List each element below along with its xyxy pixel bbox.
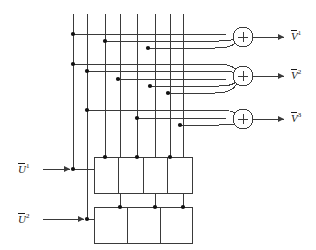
output-label-v2: V2 xyxy=(291,69,301,81)
output-v1-base: V xyxy=(291,31,298,42)
output-v2-superscript: 2 xyxy=(298,68,302,76)
output-v3-base: V xyxy=(291,113,298,124)
diagram-canvas xyxy=(0,0,316,250)
summing-junction-2 xyxy=(233,66,253,86)
input-u1-base: U xyxy=(18,164,26,175)
input-label-u2: U2 xyxy=(18,213,29,225)
output-arrows xyxy=(253,37,284,119)
summing-junction-3 xyxy=(233,109,253,129)
filter-block-diagram: U1 U2 V1 V2 V3 xyxy=(0,0,316,250)
input-u2-superscript: 2 xyxy=(26,212,30,220)
input-label-u1: U1 xyxy=(18,163,29,175)
input-arrows xyxy=(43,169,94,219)
output-v3-superscript: 3 xyxy=(298,111,302,119)
output-label-v3: V3 xyxy=(291,112,301,124)
summing-junction-1 xyxy=(233,27,253,47)
delay-block-upper xyxy=(94,157,192,193)
output-v2-base: V xyxy=(291,70,298,81)
input-u2-base: U xyxy=(18,214,26,225)
output-label-v1: V1 xyxy=(291,30,301,42)
input-u1-superscript: 1 xyxy=(26,162,30,170)
feed-group-3 xyxy=(87,110,237,125)
delay-block-lower xyxy=(94,207,192,243)
output-v1-superscript: 1 xyxy=(298,29,302,37)
